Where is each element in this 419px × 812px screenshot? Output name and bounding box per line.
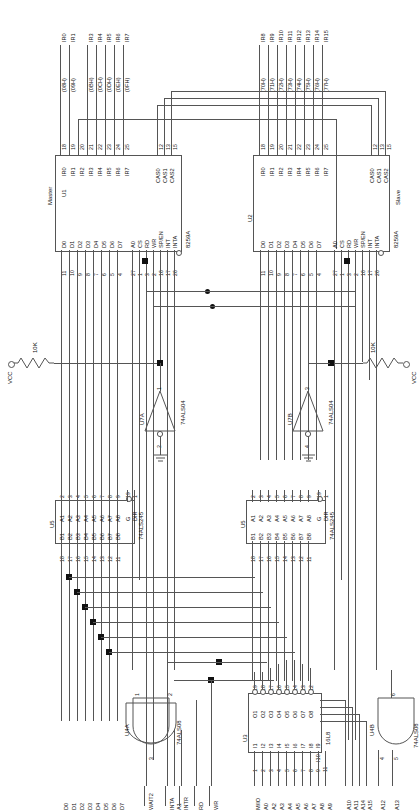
- pin-name-d7-u2: D7: [317, 241, 323, 248]
- net-label-intr: INTR: [184, 797, 190, 810]
- pin-name-d3-u2: D3: [285, 241, 291, 248]
- net-label-a8: A8: [320, 803, 326, 810]
- label-u4b-part: 74ALS08: [414, 723, 419, 748]
- pin-num-u4a-in2: 2: [168, 693, 174, 696]
- pin-name-cas1-u1: CAS1: [163, 168, 169, 183]
- wire-data-bus-d3: [85, 607, 271, 608]
- pin-name-b5-u5r: B5: [283, 533, 289, 540]
- net-label-ir0: IR0: [62, 33, 68, 42]
- inverter-u7a-74als04[interactable]: [145, 391, 177, 435]
- pin-name-i4-u3: I4: [277, 743, 283, 748]
- net-label-d1: D1: [72, 803, 78, 810]
- pin-name-d2-u2: D2: [277, 241, 283, 248]
- resistor-right: [363, 356, 403, 370]
- pin-num-ir8: 18: [261, 144, 267, 150]
- pin-name-ir0-u1: IR0: [62, 167, 68, 176]
- pin-name-a2-u5l: A2: [68, 515, 74, 522]
- pin-name-b5-u5l: B5: [92, 533, 98, 540]
- pin-name-a8-u5r: A8: [307, 515, 313, 522]
- pin-name-dir-u5r: DIR: [324, 511, 330, 521]
- pin-name-d0-u2: D0: [261, 241, 267, 248]
- wire-cas1-bus: [164, 98, 378, 99]
- net-label-ir3: IR3: [89, 33, 95, 42]
- net-label-ir7: IR7: [125, 33, 131, 42]
- pin-name-b8-u5r: B8: [307, 533, 313, 540]
- pin-name-o8-u3: O8: [309, 711, 315, 718]
- net-label-ir5: IR5: [107, 33, 113, 42]
- label-u7b-ref: U7B: [288, 413, 294, 425]
- pin-name-a0-u1: A0: [131, 241, 137, 248]
- wire-ir5: [105, 45, 106, 155]
- pin-num-ir5: 23: [107, 144, 113, 150]
- pin-name-a3-u5r: A3: [267, 515, 273, 522]
- wire-ir6: [114, 45, 115, 155]
- pin-name-spen-u1: SP/EN: [159, 231, 165, 248]
- pin-name-b4-u5r: B4: [275, 533, 281, 540]
- pin-num-ir1: 19: [71, 144, 77, 150]
- wire-ir14: [313, 45, 314, 155]
- addr-label-ir12: (74H): [297, 78, 303, 92]
- pin-num-u4a-in1: 1: [135, 693, 141, 696]
- pin-name-o6-u3: O6: [293, 711, 299, 718]
- pin-num-ir2: 20: [80, 144, 86, 150]
- ground-symbol-right: [300, 452, 317, 462]
- pin-name-int-u2: INT: [368, 239, 374, 248]
- pin-name-i9-u3: I9: [316, 743, 322, 748]
- net-label-a6: A6: [304, 803, 310, 810]
- pin-name-o7-u3: O7: [301, 711, 307, 718]
- pin-name-inta-u2: INTA: [375, 236, 381, 248]
- wire-data-bus-d2: [77, 592, 263, 593]
- net-label-a11: A11: [354, 800, 360, 810]
- pin-num-d7-u1: 4: [118, 273, 124, 276]
- net-label-a15: A15: [368, 800, 374, 810]
- pin-num-inv-left-in: 1: [157, 387, 163, 390]
- label-u1-part: 8259A: [186, 231, 192, 248]
- pin-name-d1-u2: D1: [269, 241, 275, 248]
- addr-label-ir6: (0EH): [116, 77, 122, 92]
- pin-name-d4-u2: D4: [293, 241, 299, 248]
- pin-num-cas2-master: 15: [173, 144, 179, 150]
- wire-ir9: [268, 45, 269, 155]
- pin-name-cs-u1: CS: [138, 240, 144, 248]
- pin-name-ir5-u2: IR5: [306, 167, 312, 176]
- pin-name-a0-u2: A0: [333, 241, 339, 248]
- wire-ctrl-route-1: [146, 291, 356, 292]
- wire-data-bus-d4: [93, 622, 279, 623]
- pin-name-d5-u1: D5: [102, 241, 108, 248]
- addr-label-ir3: (0BH): [89, 77, 95, 92]
- pin-name-a6-u5l: A6: [100, 515, 106, 522]
- pin-name-g-u5l: G: [126, 517, 132, 521]
- pin-num-ir11: 21: [288, 144, 294, 150]
- pin-name-d7-u1: D7: [118, 241, 124, 248]
- pin-name-ir1-u1: IR1: [71, 167, 77, 176]
- label-slave-role: Slave: [396, 190, 402, 205]
- label-u5-left-part: 74ALS245: [139, 512, 145, 540]
- pin-name-cas2-u2: CAS2: [384, 168, 390, 183]
- net-label-d3: D3: [88, 803, 94, 810]
- pin-name-ir5-u1: IR5: [107, 167, 113, 176]
- pin-num-cas2-slave: 15: [387, 144, 393, 150]
- wire-cas2-bus: [171, 91, 385, 92]
- wire-ir15: [322, 45, 323, 155]
- wire-ir4: [96, 45, 97, 155]
- label-u5-right-ref: U5: [241, 520, 247, 528]
- pin-name-b7-u5l: B7: [108, 533, 114, 540]
- addr-label-ir4: (0CH): [98, 77, 104, 92]
- pin-name-ir6-u1: IR6: [116, 167, 122, 176]
- pin-name-rd-u1: RD: [145, 240, 151, 248]
- addr-label-ir7: (0FH): [125, 78, 131, 92]
- net-label-inta: INTA: [170, 798, 176, 810]
- net-label-a14: A14: [361, 800, 367, 810]
- pin-name-inta-u1: INTA: [173, 236, 179, 248]
- pin-name-b7-u5r: B7: [299, 533, 305, 540]
- pin-name-g-u5r: G: [317, 517, 323, 521]
- pin-name-rd-u2: RD: [347, 240, 353, 248]
- inverter-u7b-74als04[interactable]: [293, 391, 325, 435]
- pin-name-b4-u5l: B4: [84, 533, 90, 540]
- pin-name-d0-u1: D0: [62, 241, 68, 248]
- addr-label-ir11: (73H): [288, 78, 294, 92]
- label-r-right-value: 10K: [371, 342, 377, 353]
- pin-name-dir-u5l: DIR: [133, 511, 139, 521]
- addr-label-ir13: (75H): [306, 78, 312, 92]
- pin-name-cas2-u1: CAS2: [170, 168, 176, 183]
